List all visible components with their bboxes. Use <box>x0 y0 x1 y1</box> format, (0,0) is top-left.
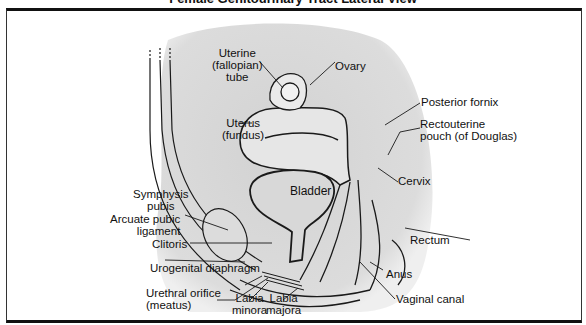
label-anus: Anus <box>386 268 412 280</box>
label-cervix: Cervix <box>398 175 431 187</box>
label-posterior-fornix: Posterior fornix <box>421 96 498 108</box>
label-rectouterine-pouch: Rectouterine pouch (of Douglas) <box>420 118 517 142</box>
label-labia-minora: Labia minora <box>232 292 267 316</box>
label-clitoris: Clitoris <box>152 238 187 250</box>
label-rectum: Rectum <box>410 234 450 246</box>
anatomy-illustration <box>0 0 586 325</box>
label-uterine-tube: Uterine (fallopian) tube <box>212 47 263 83</box>
label-labia-majora: Labia majora <box>266 292 301 316</box>
label-bladder: Bladder <box>290 185 331 197</box>
label-urethral-orifice: Urethral orifice (meatus) <box>146 287 221 311</box>
label-symphysis-pubis: Symphysis pubis <box>133 188 189 212</box>
label-ovary: Ovary <box>335 60 366 72</box>
label-vaginal-canal: Vaginal canal <box>396 293 464 305</box>
label-urogenital-diaphragm: Urogenital diaphragm <box>150 262 260 274</box>
label-uterus: Uterus (fundus) <box>222 117 264 141</box>
label-arcuate-pubic-ligament: Arcuate pubic ligament <box>110 213 180 237</box>
